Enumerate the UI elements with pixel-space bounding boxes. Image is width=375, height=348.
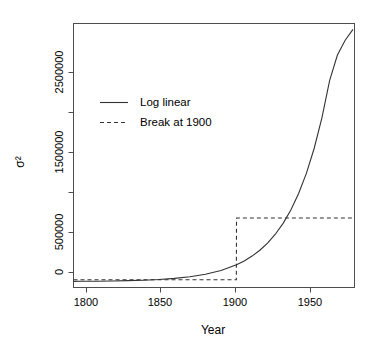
chart-figure: 0 500000 1500000 2500000 σ² 1800 1850 19…	[0, 0, 375, 348]
variance-growth-chart: 0 500000 1500000 2500000 σ² 1800 1850 19…	[0, 0, 375, 348]
x-axis-title: Year	[201, 323, 225, 337]
y-tick-label-500000: 500000	[53, 214, 65, 251]
x-tick-label-1800: 1800	[74, 296, 98, 308]
y-axis-title: σ²	[13, 156, 27, 167]
legend-label-break-at-1900: Break at 1900	[140, 116, 212, 128]
y-tick-label-1500000: 1500000	[53, 131, 65, 174]
y-tick-label-0: 0	[53, 269, 65, 275]
chart-legend: Log linear Break at 1900	[100, 96, 212, 128]
x-tick-label-1900: 1900	[223, 296, 247, 308]
x-tick-label-1950: 1950	[298, 296, 322, 308]
x-tick-label-1850: 1850	[148, 296, 172, 308]
series-log-linear	[74, 29, 353, 281]
series-break-at-1900	[74, 218, 353, 280]
y-tick-label-2500000: 2500000	[53, 51, 65, 94]
y-axis-ticks	[69, 73, 74, 273]
legend-label-log-linear: Log linear	[140, 96, 191, 108]
x-axis-ticks	[87, 288, 311, 293]
